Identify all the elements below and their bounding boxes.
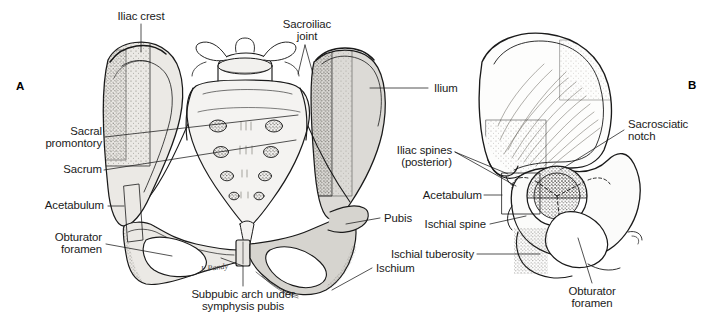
label-ischial-spine: Ischial spine: [382, 218, 486, 230]
label-acetabulum-b: Acetabulum: [382, 189, 482, 201]
label-sacrum: Sacrum: [0, 163, 102, 175]
panel-label-a: A: [16, 80, 24, 92]
label-subpubic-arch: Subpubic arch under symphysis pubis: [164, 288, 322, 313]
label-acetabulum: Acetabulum: [0, 199, 104, 211]
label-sacral-promontory: Sacral promontory: [0, 125, 102, 150]
label-obturator-foramen: Obturator foramen: [0, 231, 102, 256]
label-ilium: Ilium: [434, 82, 458, 94]
label-obturator-foramen-b: Obturator foramen: [552, 285, 632, 310]
label-iliac-crest: Iliac crest: [88, 10, 194, 22]
anatomy-figure: A B Iliac crest Sacroiliac joint Ilium S…: [0, 0, 706, 329]
label-ischial-tuberosity: Ischial tuberosity: [364, 248, 474, 260]
label-iliac-spines: Iliac spines (posterior): [358, 144, 452, 169]
panel-label-b: B: [688, 79, 696, 91]
label-ischium: Ischium: [376, 262, 415, 274]
pelvis-illustration: [0, 0, 706, 329]
label-sacroiliac-joint: Sacroiliac joint: [268, 18, 346, 43]
label-sacrosciatic-notch: Sacrosciatic notch: [628, 118, 688, 143]
